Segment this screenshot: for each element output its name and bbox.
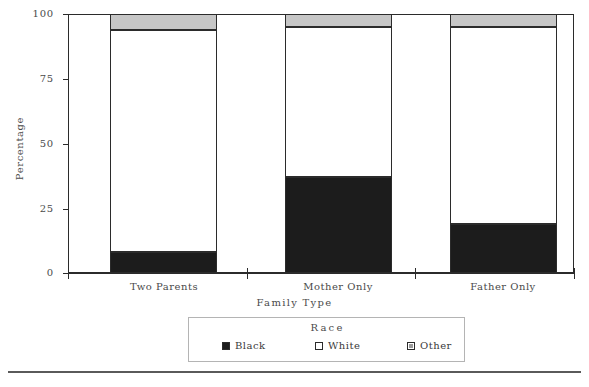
bar-two-parents <box>110 14 217 273</box>
x-category-label-two-parents: Two Parents <box>104 281 224 292</box>
y-tick-label-25: 25 <box>8 203 54 214</box>
x-tick-2 <box>415 268 416 279</box>
other-swatch-icon <box>407 342 415 350</box>
x-category-label-father-only: Father Only <box>443 281 563 292</box>
legend-item-other[interactable]: Other <box>407 340 452 351</box>
y-tick-label-0: 0 <box>8 267 54 278</box>
legend-item-white[interactable]: White <box>315 340 360 351</box>
y-tick-label-75: 75 <box>8 73 54 84</box>
bar-father-only <box>450 14 557 273</box>
y-tick-label-100: 100 <box>8 8 54 19</box>
legend-title: Race <box>189 322 466 333</box>
legend: Race Black White Other <box>188 317 465 362</box>
page-divider <box>8 371 581 373</box>
legend-item-black[interactable]: Black <box>222 340 266 351</box>
bar-segment-black <box>110 252 217 273</box>
black-swatch-icon <box>222 342 230 350</box>
bar-segment-other <box>450 14 557 27</box>
x-tick-1 <box>247 268 248 279</box>
x-tick-right <box>574 268 575 279</box>
x-axis-label: Family Type <box>0 297 589 308</box>
legend-label-white: White <box>328 340 360 351</box>
legend-label-other: Other <box>420 340 452 351</box>
stacked-bar-chart: Percentage 100 75 50 25 0 Two Parents Mo… <box>0 0 589 387</box>
legend-items: Black White Other <box>189 340 466 360</box>
bar-mother-only <box>285 14 392 273</box>
x-axis-line <box>68 273 575 274</box>
bar-segment-black <box>285 177 392 273</box>
y-tick-label-50: 50 <box>8 138 54 149</box>
bar-segment-black <box>450 224 557 273</box>
bar-segment-other <box>285 14 392 27</box>
legend-label-black: Black <box>235 340 266 351</box>
bar-segment-other <box>110 14 217 30</box>
bar-segment-white <box>110 30 217 253</box>
x-category-label-mother-only: Mother Only <box>278 281 398 292</box>
white-swatch-icon <box>315 342 323 350</box>
x-tick-left <box>68 268 69 279</box>
bar-segment-white <box>285 27 392 177</box>
bar-segment-white <box>450 27 557 224</box>
